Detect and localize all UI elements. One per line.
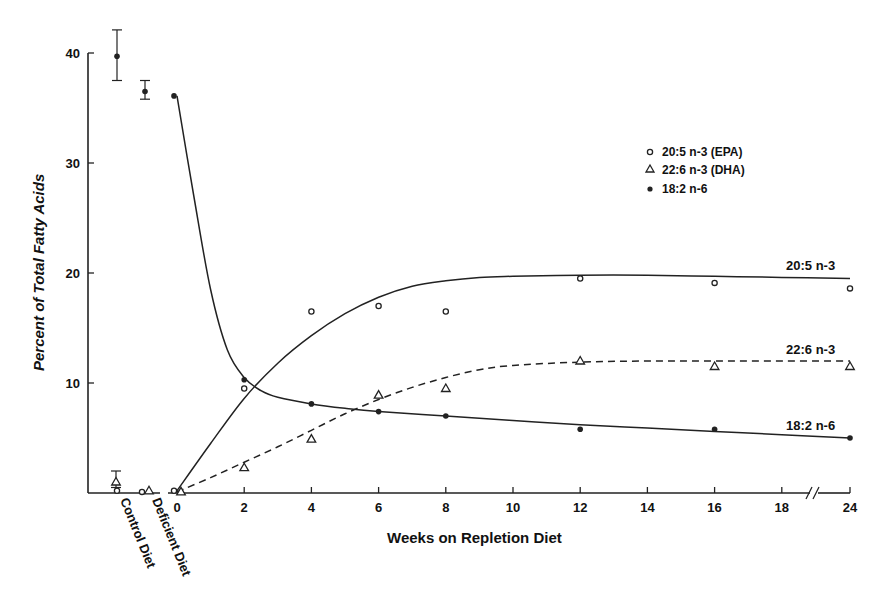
category-label-deficient-diet: Deficient Diet bbox=[149, 496, 194, 579]
legend-open-circle-icon bbox=[647, 149, 652, 154]
y-tick-label-40: 40 bbox=[66, 46, 80, 61]
data-point-dha bbox=[576, 357, 585, 365]
baseline-point-epa bbox=[139, 489, 144, 494]
y-tick-label-30: 30 bbox=[66, 156, 80, 171]
x-tick-label-10: 10 bbox=[506, 500, 520, 515]
baseline-point-dha bbox=[145, 486, 154, 494]
fatty-acid-chart: 10203040 02468101214161824 Weeks on Repl… bbox=[0, 0, 885, 607]
x-tick-label-24: 24 bbox=[843, 500, 858, 515]
data-point-dha bbox=[442, 384, 451, 392]
x-axis-title: Weeks on Repletion Diet bbox=[387, 529, 562, 546]
data-point-epa bbox=[578, 276, 583, 281]
baseline-point-la bbox=[142, 89, 148, 95]
data-point-la bbox=[241, 377, 247, 383]
data-point-dha bbox=[307, 435, 316, 443]
legend-label-la: 18:2 n-6 bbox=[662, 182, 708, 196]
data-point-epa bbox=[847, 286, 852, 291]
y-tick-label-20: 20 bbox=[66, 266, 80, 281]
data-point-epa bbox=[376, 303, 381, 308]
series-label-epa: 20:5 n-3 bbox=[786, 258, 835, 273]
legend-filled-circle-icon bbox=[647, 186, 652, 191]
legend: 20:5 n-3 (EPA) 22:6 n-3 (DHA) 18:2 n-6 bbox=[646, 145, 745, 196]
x-tick-label-18: 18 bbox=[775, 500, 789, 515]
data-point-la bbox=[577, 426, 583, 432]
x-tick-label-6: 6 bbox=[375, 500, 382, 515]
x-tick-label-8: 8 bbox=[442, 500, 449, 515]
data-point-dha bbox=[240, 463, 249, 471]
y-axis-title: Percent of Total Fatty Acids bbox=[30, 174, 47, 371]
legend-triangle-icon bbox=[646, 165, 654, 172]
fit-curve-dha bbox=[177, 361, 850, 492]
x-tick-label-14: 14 bbox=[640, 500, 655, 515]
x-tick-label-16: 16 bbox=[707, 500, 721, 515]
data-point-epa bbox=[171, 488, 176, 493]
baseline-point-dha bbox=[112, 478, 121, 486]
legend-label-epa: 20:5 n-3 (EPA) bbox=[662, 145, 742, 159]
legend-label-dha: 22:6 n-3 (DHA) bbox=[662, 163, 745, 177]
data-point-la bbox=[847, 435, 853, 441]
data-point-epa bbox=[242, 386, 247, 391]
baseline-point-la bbox=[114, 54, 120, 60]
fit-curve-la bbox=[177, 96, 850, 438]
data-point-dha bbox=[710, 362, 719, 370]
data-point-la bbox=[309, 401, 315, 407]
data-point-epa bbox=[443, 309, 448, 314]
y-tick-label-10: 10 bbox=[66, 376, 80, 391]
x-tick-label-0: 0 bbox=[173, 500, 180, 515]
data-point-epa bbox=[712, 280, 717, 285]
baseline-point-epa bbox=[114, 488, 119, 493]
series-label-la: 18:2 n-6 bbox=[786, 418, 835, 433]
data-point-epa bbox=[309, 309, 314, 314]
data-point-la bbox=[376, 409, 382, 415]
data-point-dha bbox=[374, 391, 383, 399]
data-point-dha bbox=[846, 362, 855, 370]
x-tick-label-2: 2 bbox=[241, 500, 248, 515]
series-label-dha: 22:6 n-3 bbox=[786, 342, 835, 357]
data-point-la bbox=[443, 413, 449, 419]
x-tick-label-12: 12 bbox=[573, 500, 587, 515]
fit-curve-epa bbox=[177, 275, 850, 491]
data-point-la bbox=[712, 426, 718, 432]
x-tick-label-4: 4 bbox=[308, 500, 316, 515]
data-point-la bbox=[171, 93, 177, 99]
